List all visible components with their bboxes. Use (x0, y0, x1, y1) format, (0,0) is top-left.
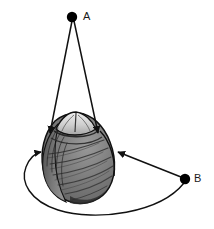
point-a-label: A (83, 11, 90, 22)
diagram-canvas: A B (0, 0, 214, 229)
point-b-label: B (194, 173, 201, 184)
arrow-b-direct (118, 152, 181, 177)
diagram-svg (0, 0, 214, 229)
point-b-marker (180, 174, 190, 184)
larva-illustration (42, 112, 114, 204)
point-a-marker (67, 12, 77, 22)
